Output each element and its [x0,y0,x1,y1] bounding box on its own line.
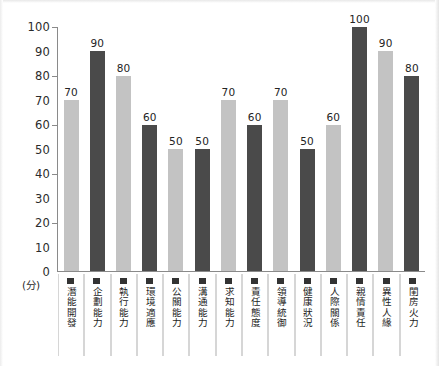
bar[interactable]: 100 [352,27,367,271]
bar-value-label: 60 [326,111,340,123]
category-label-cell: 企劃能力 [84,274,110,356]
bar-slot: 90 [373,27,399,271]
category-label-cell: 公關能力 [163,274,189,356]
bar-slot: 70 [268,27,294,271]
category-label-text: 責任態度 [249,287,259,329]
category-label-text: 健康狀況 [302,287,312,329]
bar-value-label: 70 [222,86,236,98]
bar-slot: 100 [346,27,372,271]
bar-value-label: 50 [169,135,183,147]
bars-container: 70908060505070607050601009080 [58,27,425,271]
bar-slot: 50 [294,27,320,271]
bar[interactable]: 60 [247,125,262,271]
category-label-cell: 潛能開發 [58,274,84,356]
bar-slot: 80 [399,27,425,271]
category-label-text: 企劃能力 [92,287,102,329]
bar-slot: 50 [163,27,189,271]
category-label-text: 異性人緣 [381,287,391,329]
bar-slot: 70 [215,27,241,271]
bar-value-label: 60 [143,111,157,123]
legend-swatch-icon [67,278,74,284]
y-axis-tick-label: 20 [35,216,50,230]
bar-slot: 60 [320,27,346,271]
page-edge-shading-left [0,0,3,366]
y-axis-tick-label: 10 [35,241,50,255]
bar-value-label: 90 [90,37,104,49]
bar-slot: 60 [242,27,268,271]
bar-value-label: 70 [274,86,288,98]
y-axis-tick-label: 40 [35,167,50,181]
category-label-cell: 執行能力 [111,274,137,356]
bar-slot: 60 [137,27,163,271]
bar[interactable]: 70 [221,100,236,271]
category-label-cell: 求知能力 [216,274,242,356]
bar[interactable]: 80 [116,76,131,271]
category-label-text: 親情責任 [355,287,365,329]
bar[interactable]: 90 [378,51,393,271]
bar-value-label: 50 [300,135,314,147]
category-label-cell: 健康狀況 [295,274,321,356]
page-edge-shading-top [0,0,439,3]
bar-value-label: 80 [117,62,131,74]
y-axis-tick-label: 100 [27,20,50,34]
legend-swatch-icon [277,278,284,284]
category-label-cell: 環境適應 [137,274,163,356]
category-label-text: 閨房火力 [407,287,417,329]
legend-swatch-icon [304,278,311,284]
y-axis-tick-label: 70 [35,94,50,108]
bar[interactable]: 60 [142,125,157,271]
y-axis-tick-mark [52,27,57,28]
plot-area: 1009080706050403020100 70908060505070607… [57,27,425,272]
bar[interactable]: 60 [326,125,341,271]
bar[interactable]: 90 [90,51,105,271]
y-axis-tick-mark [52,223,57,224]
bar[interactable]: 80 [404,76,419,271]
bar-slot: 70 [58,27,84,271]
legend-swatch-icon [172,278,179,284]
legend-swatch-icon [251,278,258,284]
legend-swatch-icon [146,278,153,284]
category-label-text: 環境適應 [144,287,154,329]
category-label-cell: 溝通能力 [189,274,215,356]
bar-slot: 80 [110,27,136,271]
legend-swatch-icon [120,278,127,284]
legend-swatch-icon [383,278,390,284]
y-axis-tick-label: 90 [35,45,50,59]
category-label-cell: 閨房火力 [400,274,425,356]
bar-value-label: 70 [64,86,78,98]
category-label-cell: 責任態度 [242,274,268,356]
legend-swatch-icon [225,278,232,284]
bar[interactable]: 50 [300,149,315,271]
bar[interactable]: 50 [168,149,183,271]
bar-slot: 50 [189,27,215,271]
bar-value-label: 90 [379,37,393,49]
bar[interactable]: 70 [273,100,288,271]
category-label-cell: 人際關係 [321,274,347,356]
unit-caption: (分) [22,277,40,292]
bar-slot: 90 [84,27,110,271]
category-label-text: 人際關係 [328,287,338,329]
category-label-text: 潛能開發 [65,287,75,329]
legend-swatch-icon [93,278,100,284]
bar[interactable]: 50 [195,149,210,271]
bar-value-label: 50 [195,135,209,147]
bar-chart-figure: 1009080706050403020100 70908060505070607… [0,0,439,366]
y-axis-tick-mark [52,125,57,126]
y-axis-tick-label: 60 [35,118,50,132]
category-label-cell: 領導統御 [268,274,294,356]
category-label-cell: 異性人緣 [373,274,399,356]
y-axis-tick-label: 80 [35,69,50,83]
legend-swatch-icon [330,278,337,284]
y-axis-tick-label: 0 [42,265,50,279]
legend-swatch-icon [199,278,206,284]
legend-swatch-icon [409,278,416,284]
bar-value-label: 80 [405,62,419,74]
page-edge-shading-right [435,0,439,366]
category-label-text: 執行能力 [118,287,128,329]
bar[interactable]: 70 [64,100,79,271]
legend-swatch-icon [356,278,363,284]
category-label-cell: 親情責任 [347,274,373,356]
category-label-text: 溝通能力 [197,287,207,329]
bar-value-label: 100 [349,13,370,25]
category-label-text: 領導統御 [276,287,286,329]
